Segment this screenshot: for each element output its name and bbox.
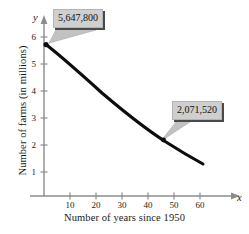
x-tick-label-20: 20 [87, 200, 105, 210]
data-point-end-marker [161, 138, 166, 143]
callout-end-pointer [161, 118, 196, 141]
x-tick-label-50: 50 [165, 200, 183, 210]
x-axis-title: Number of years since 1950 [0, 212, 249, 223]
x-tick-label-30: 30 [113, 200, 131, 210]
annotation-callout-end: 2,071,520 [172, 101, 222, 120]
y-axis-letter: y [33, 12, 38, 23]
x-axis-letter: x [237, 192, 242, 203]
data-point-start-marker [43, 42, 48, 47]
x-tick-label-60: 60 [191, 200, 209, 210]
x-tick-label-40: 40 [139, 200, 157, 210]
y-axis-arrowhead [41, 15, 48, 24]
x-tick-label-10: 10 [61, 200, 79, 210]
y-axis-title: Number of farms (in millions) [17, 21, 28, 201]
farms-decay-chart: y x 1 2 3 4 5 6 10 20 30 40 50 60 Number… [0, 0, 249, 234]
annotation-callout-start: 5,647,800 [53, 9, 103, 28]
callout-start-pointer [49, 28, 96, 43]
